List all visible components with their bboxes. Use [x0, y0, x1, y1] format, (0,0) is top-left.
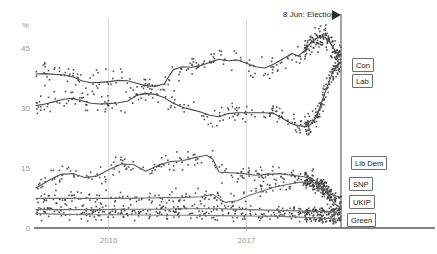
- election-annotation-label: 8 Jun: Election: [283, 10, 335, 19]
- y-axis-tick-label: 0: [26, 224, 31, 233]
- vertical-gridlines: [109, 18, 247, 228]
- legend-item-green[interactable]: Green: [347, 213, 376, 227]
- legend-label-snp: SNP: [353, 180, 369, 189]
- y-axis-tick-label: 15: [21, 164, 30, 173]
- y-axis-tick-label: 30: [21, 104, 30, 113]
- legend-item-snp[interactable]: SNP: [349, 177, 373, 191]
- y-axis-unit-label: %: [22, 21, 29, 30]
- x-axis-tick-label: 2017: [238, 236, 256, 245]
- legend-item-lab[interactable]: Lab: [352, 74, 373, 88]
- trend-lines-layer: [36, 37, 341, 219]
- legend-item-con[interactable]: Con: [352, 58, 374, 72]
- scatter-points-layer: [35, 24, 341, 224]
- legend-label-lab: Lab: [356, 77, 369, 86]
- x-axis-tick-label: 2016: [100, 236, 118, 245]
- legend-label-con: Con: [356, 61, 370, 70]
- legend-item-ukip[interactable]: UKIP: [349, 195, 375, 209]
- legend-label-green: Green: [351, 216, 372, 225]
- legend-label-libdem: Lib Dem: [355, 159, 383, 168]
- legend-item-libdem[interactable]: Lib Dem: [351, 156, 387, 170]
- polling-chart: 4530150%20162017 8 Jun: Election Con Lab…: [0, 0, 437, 254]
- y-axis-tick-label: 45: [21, 44, 30, 53]
- legend-label-ukip: UKIP: [353, 198, 371, 207]
- axis-layer: 4530150%20162017: [21, 21, 435, 245]
- election-flag-icon: [332, 10, 341, 20]
